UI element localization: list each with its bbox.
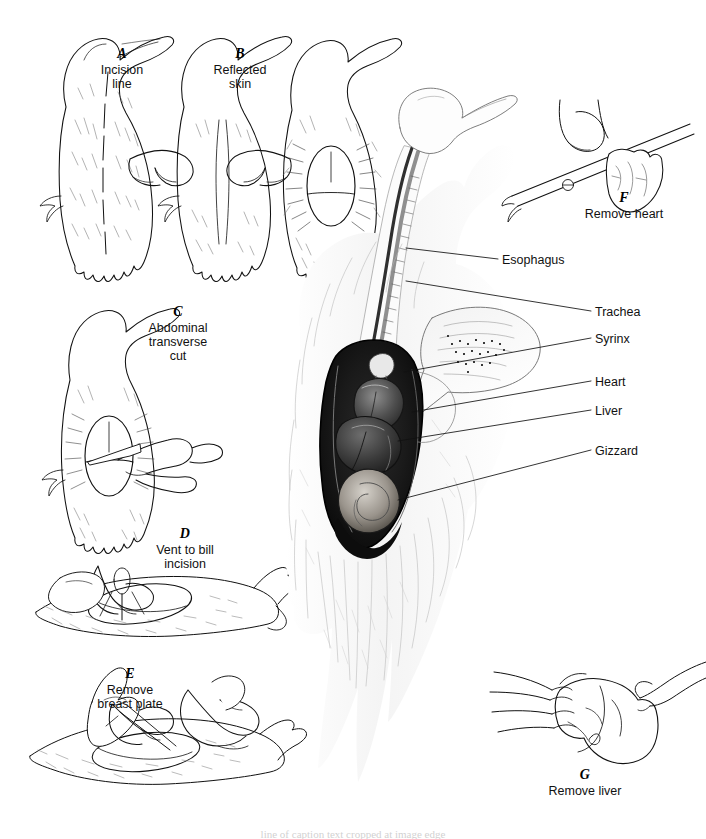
panel-text-f: Remove heart bbox=[558, 207, 690, 221]
organ-label-syrinx: Syrinx bbox=[595, 332, 630, 346]
panel-g-illustration bbox=[490, 662, 706, 764]
organ-label-heart: Heart bbox=[595, 375, 626, 389]
panel-caption-c: C Abdominal transverse cut bbox=[120, 304, 236, 363]
panel-caption-f: F Remove heart bbox=[558, 190, 690, 221]
panel-d-illustration bbox=[36, 566, 306, 637]
panel-letter-e: E bbox=[70, 666, 190, 682]
panel-text-e: Remove breast plate bbox=[70, 683, 190, 711]
panel-caption-a: A Incision line bbox=[62, 46, 182, 91]
panel-text-d: Vent to bill incision bbox=[127, 543, 243, 571]
panel-letter-g: G bbox=[519, 767, 651, 783]
organ-label-esophagus: Esophagus bbox=[502, 253, 565, 267]
panel-text-b: Reflected skin bbox=[180, 63, 300, 91]
panel-text-a: Incision line bbox=[62, 63, 182, 91]
panel-letter-c: C bbox=[120, 304, 236, 320]
figure-caption-cropped: line of caption text cropped at image ed… bbox=[0, 828, 706, 839]
panel-letter-f: F bbox=[558, 190, 690, 206]
panel-caption-e: E Remove breast plate bbox=[70, 666, 190, 711]
panel-text-c: Abdominal transverse cut bbox=[120, 321, 236, 363]
panel-letter-b: B bbox=[180, 46, 300, 62]
organ-label-trachea: Trachea bbox=[595, 305, 640, 319]
panel-caption-g: G Remove liver bbox=[519, 767, 651, 798]
panel-caption-d: D Vent to bill incision bbox=[127, 526, 243, 571]
panel-text-g: Remove liver bbox=[519, 784, 651, 798]
panel-letter-a: A bbox=[62, 46, 182, 62]
panel-caption-b: B Reflected skin bbox=[180, 46, 300, 91]
organ-label-liver: Liver bbox=[595, 404, 622, 418]
panel-letter-d: D bbox=[127, 526, 243, 542]
organ-label-gizzard: Gizzard bbox=[595, 444, 638, 458]
